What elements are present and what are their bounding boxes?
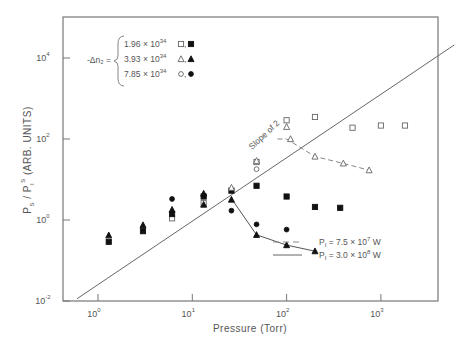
filled-triangle-point	[228, 196, 234, 202]
filled-circle-point	[229, 208, 234, 213]
delta-n-label: -Δn₂ =	[87, 55, 111, 65]
power-legend-entry: PI = 3.0 × 108 W	[319, 249, 381, 261]
filled-circle-point	[284, 227, 289, 232]
x-axis-title: Pressure (Torr)	[213, 323, 287, 334]
open-triangle-point	[228, 184, 234, 190]
x-tick-label: 102	[276, 307, 290, 319]
filled-circle-point	[170, 197, 175, 202]
open-square-point	[378, 123, 383, 128]
power-legend-entry: PI = 7.5 × 107 W	[319, 236, 381, 248]
filled-triangle-point	[201, 190, 207, 196]
filled-square-point	[284, 194, 289, 199]
legend-brace	[114, 36, 124, 86]
filled-square-point	[140, 229, 145, 234]
fit-curves	[231, 139, 369, 251]
y-tick-label: 102	[36, 132, 50, 144]
y-tick-label: 10-2	[35, 294, 51, 306]
open-triangle-point	[340, 160, 346, 166]
filled-square-point	[312, 204, 317, 209]
svg-text:,: ,	[184, 69, 186, 79]
open-triangle-point	[312, 153, 318, 159]
filled-square-point	[254, 183, 259, 188]
y-axis: 10-2100102104	[35, 51, 70, 306]
y-tick-label: 104	[36, 51, 50, 63]
x-axis: 100101102103	[87, 294, 384, 319]
filled-square-point	[106, 239, 111, 244]
y-axis-title: PS / PIS (ARB. UNITS)	[20, 106, 35, 213]
delta-n-entry: 1.96 × 1034	[124, 38, 167, 49]
svg-text:,: ,	[184, 39, 186, 49]
power-legend: PI = 7.5 × 107 WPI = 3.0 × 108 W	[273, 236, 381, 261]
filled-triangle-point	[140, 222, 146, 228]
svg-text:PS / PIS (ARB. UNITS): PS / PIS (ARB. UNITS)	[20, 106, 35, 213]
y-tick-label: 100	[36, 213, 50, 225]
open-circle-point	[254, 167, 259, 172]
open-triangle-point	[284, 124, 290, 130]
open-square-point	[402, 123, 407, 128]
x-tick-label: 103	[370, 307, 384, 319]
delta-n-entry: 3.93 × 1034	[124, 53, 167, 64]
open-square-point	[312, 114, 317, 119]
plot-frame	[63, 17, 438, 301]
filled-triangle-point	[169, 206, 175, 212]
x-tick-label: 100	[87, 307, 101, 319]
slope-annotation: Slope of 2	[247, 118, 282, 152]
filled-square-point	[338, 205, 343, 210]
slope-reference-line	[77, 45, 454, 299]
open-square-point	[284, 118, 289, 123]
chart-figure: 100101102103 10-2100102104 Slope of 2 Pr…	[0, 0, 458, 348]
filled-circle-point	[254, 222, 259, 227]
open-triangle-point	[288, 136, 294, 142]
solid-curve	[231, 199, 315, 252]
open-square-point	[350, 125, 355, 130]
delta-n-entry: 7.85 × 1034	[124, 68, 167, 79]
svg-text:,: ,	[184, 54, 186, 64]
x-tick-label: 101	[182, 307, 196, 319]
filled-triangle-point	[106, 232, 112, 238]
delta-n-legend: -Δn₂ =1.96 × 1034,3.93 × 1034,7.85 × 103…	[87, 36, 194, 86]
